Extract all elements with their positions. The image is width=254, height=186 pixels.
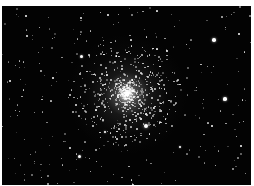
- star: [151, 97, 153, 99]
- star: [139, 117, 140, 118]
- star: [174, 26, 175, 27]
- star: [123, 97, 124, 98]
- star: [92, 125, 94, 127]
- star: [104, 106, 106, 108]
- star: [15, 65, 16, 66]
- star: [122, 102, 123, 103]
- star: [129, 84, 131, 86]
- star: [49, 164, 50, 165]
- star: [105, 67, 107, 69]
- star: [227, 146, 228, 147]
- star: [82, 150, 83, 151]
- star: [123, 73, 125, 75]
- star: [123, 116, 125, 118]
- star: [186, 153, 188, 155]
- star: [136, 94, 137, 95]
- star: [239, 6, 240, 7]
- star: [130, 39, 132, 41]
- star: [83, 105, 85, 107]
- star: [86, 124, 87, 125]
- star: [125, 120, 127, 122]
- star: [116, 100, 117, 101]
- star: [130, 136, 131, 137]
- star: [119, 104, 120, 105]
- star: [140, 133, 141, 134]
- star: [159, 106, 160, 107]
- star: [121, 65, 123, 67]
- star: [112, 94, 113, 95]
- star: [94, 122, 95, 123]
- star: [145, 89, 146, 90]
- star: [95, 94, 96, 95]
- star: [150, 163, 151, 164]
- star: [159, 122, 161, 124]
- star: [69, 94, 71, 96]
- star: [215, 165, 216, 166]
- star: [17, 115, 18, 116]
- star: [115, 136, 116, 137]
- star: [149, 7, 151, 9]
- star-cluster-image: Globular star cluster against black sky: [2, 6, 251, 185]
- star: [154, 88, 155, 89]
- star: [111, 50, 112, 51]
- star: [117, 120, 118, 121]
- star: [84, 91, 86, 93]
- star: [130, 126, 132, 128]
- star: [47, 183, 48, 184]
- star: [129, 96, 130, 97]
- star: [158, 56, 160, 58]
- star: [131, 179, 133, 181]
- star: [25, 84, 26, 85]
- star: [114, 80, 116, 82]
- star: [135, 115, 137, 117]
- star: [31, 174, 32, 175]
- star: [140, 118, 142, 120]
- star: [157, 99, 159, 101]
- star: [151, 88, 153, 90]
- star: [149, 112, 151, 114]
- star: [118, 144, 120, 146]
- star: [234, 129, 235, 130]
- star: [134, 61, 136, 63]
- star: [136, 84, 137, 85]
- star: [79, 73, 81, 75]
- star: [110, 79, 112, 81]
- star: [9, 80, 11, 82]
- star: [69, 147, 70, 148]
- star: [47, 175, 49, 177]
- star: [78, 155, 81, 158]
- star: [72, 111, 74, 113]
- star: [89, 158, 90, 159]
- star: [245, 173, 246, 174]
- star: [113, 127, 115, 129]
- star: [111, 89, 113, 91]
- star: [125, 128, 127, 130]
- star: [118, 128, 120, 130]
- star: [136, 128, 138, 130]
- star: [80, 72, 81, 73]
- star: [102, 37, 103, 38]
- star: [139, 141, 141, 143]
- star: [221, 16, 223, 18]
- star: [163, 103, 164, 104]
- star: [78, 129, 79, 130]
- star: [174, 72, 175, 73]
- star: [64, 133, 66, 135]
- star: [163, 116, 164, 117]
- star: [121, 68, 123, 70]
- star: [114, 61, 116, 63]
- star: [131, 14, 132, 15]
- star: [119, 80, 121, 82]
- star: [130, 108, 131, 109]
- star: [125, 144, 127, 146]
- star: [161, 80, 162, 81]
- star: [146, 94, 148, 96]
- star: [129, 119, 131, 121]
- star: [140, 135, 141, 136]
- star: [103, 54, 104, 55]
- star: [146, 110, 147, 111]
- star: [132, 114, 133, 115]
- star: [138, 108, 139, 109]
- star: [144, 50, 145, 51]
- star: [117, 97, 118, 98]
